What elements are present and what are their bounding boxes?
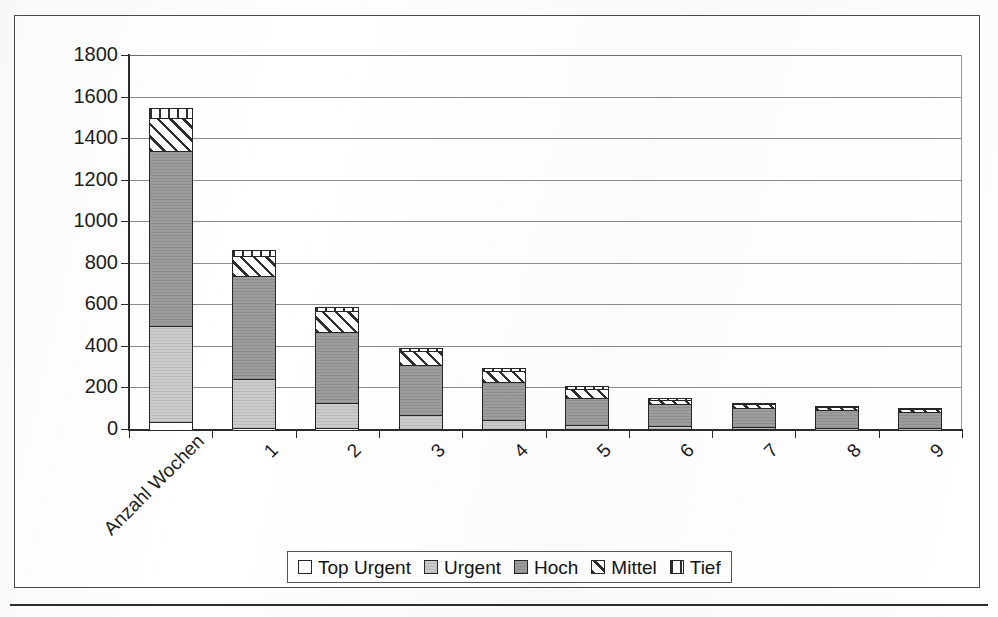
bar-segment[interactable]	[483, 382, 525, 419]
gridline	[129, 180, 962, 181]
bar-column[interactable]	[815, 406, 859, 429]
bar-segment[interactable]	[316, 428, 358, 430]
bar-segment[interactable]	[150, 109, 192, 118]
bar-segment[interactable]	[400, 415, 442, 429]
y-axis-tick-label: 1400	[0, 127, 118, 147]
bar-column[interactable]	[898, 408, 942, 429]
legend-item[interactable]: Top Urgent	[298, 558, 411, 577]
bar-segment[interactable]	[566, 389, 608, 398]
y-axis-tick-label: 1000	[0, 210, 118, 230]
y-tick-mark	[121, 263, 129, 264]
bar-segment[interactable]	[316, 311, 358, 332]
bar-segment[interactable]	[233, 428, 275, 430]
bar-segment[interactable]	[566, 429, 608, 430]
x-tick-mark	[629, 429, 630, 438]
bar-segment[interactable]	[816, 410, 858, 428]
y-tick-mark	[121, 55, 129, 56]
bar-segment[interactable]	[566, 398, 608, 425]
legend-swatch-urgent-icon	[424, 560, 438, 574]
y-axis-tick-label: 400	[0, 335, 118, 355]
bar-segment[interactable]	[899, 430, 941, 431]
legend-item[interactable]: Urgent	[424, 558, 501, 577]
x-tick-mark	[212, 429, 213, 438]
x-tick-mark	[879, 429, 880, 438]
legend-label: Top Urgent	[318, 558, 411, 577]
y-tick-mark	[121, 387, 129, 388]
y-axis-tick-label: 1200	[0, 169, 118, 189]
legend-swatch-mittel-icon	[591, 560, 605, 574]
y-axis-tick-label: 0	[0, 418, 118, 438]
bar-segment[interactable]	[150, 422, 192, 430]
y-axis-tick-label: 200	[0, 376, 118, 396]
bar-column[interactable]	[482, 368, 526, 429]
y-tick-mark	[121, 180, 129, 181]
bar-segment[interactable]	[483, 420, 525, 429]
gridline	[129, 97, 962, 98]
x-tick-mark	[296, 429, 297, 438]
y-tick-mark	[121, 138, 129, 139]
bar-column[interactable]	[732, 403, 776, 429]
bar-segment[interactable]	[733, 408, 775, 428]
bar-segment[interactable]	[733, 429, 775, 430]
bar-column[interactable]	[149, 108, 193, 429]
bar-segment[interactable]	[400, 429, 442, 430]
bottom-rule	[10, 604, 988, 606]
x-tick-mark	[795, 429, 796, 438]
bar-column[interactable]	[648, 398, 692, 429]
bar-column[interactable]	[399, 348, 443, 429]
bar-segment[interactable]	[316, 332, 358, 404]
y-axis-tick-label: 1600	[0, 86, 118, 106]
plot-right-border	[961, 55, 962, 430]
bar-segment[interactable]	[400, 351, 442, 366]
chart-page: 180016001400120010008006004002000 Anzahl…	[0, 0, 998, 617]
legend-label: Mittel	[611, 558, 656, 577]
x-tick-mark	[962, 429, 963, 438]
bar-segment[interactable]	[233, 379, 275, 428]
legend-label: Hoch	[534, 558, 578, 577]
bar-segment[interactable]	[649, 429, 691, 430]
x-tick-mark	[129, 429, 130, 438]
bar-segment[interactable]	[649, 404, 691, 426]
legend-item[interactable]: Hoch	[514, 558, 578, 577]
y-axis-tick-label: 1800	[0, 44, 118, 64]
gridline	[129, 138, 962, 139]
x-tick-mark	[712, 429, 713, 438]
bar-segment[interactable]	[483, 429, 525, 430]
y-axis-tick-label: 600	[0, 293, 118, 313]
y-tick-mark	[121, 97, 129, 98]
bar-segment[interactable]	[816, 430, 858, 431]
x-tick-mark	[379, 429, 380, 438]
bar-segment[interactable]	[316, 403, 358, 428]
chart-legend: Top UrgentUrgentHochMittelTief	[287, 551, 732, 583]
gridline	[129, 221, 962, 222]
legend-swatch-hoch-icon	[514, 560, 528, 574]
legend-swatch-topurgent-icon	[298, 560, 312, 574]
x-tick-mark	[462, 429, 463, 438]
legend-swatch-tief-icon	[670, 560, 684, 574]
bar-segment[interactable]	[899, 412, 941, 429]
bar-column[interactable]	[565, 386, 609, 429]
bar-segment[interactable]	[400, 365, 442, 415]
legend-item[interactable]: Tief	[670, 558, 721, 577]
y-tick-mark	[121, 221, 129, 222]
plot-top-border	[129, 55, 962, 56]
legend-item[interactable]: Mittel	[591, 558, 656, 577]
y-axis-tick-label: 800	[0, 252, 118, 272]
bar-segment[interactable]	[483, 371, 525, 382]
bar-segment[interactable]	[233, 256, 275, 276]
legend-label: Urgent	[444, 558, 501, 577]
y-tick-mark	[121, 346, 129, 347]
x-tick-mark	[546, 429, 547, 438]
y-tick-mark	[121, 429, 129, 430]
bar-column[interactable]	[232, 250, 276, 429]
bar-segment[interactable]	[233, 276, 275, 379]
legend-label: Tief	[690, 558, 721, 577]
bar-segment[interactable]	[150, 151, 192, 327]
bar-segment[interactable]	[150, 118, 192, 150]
bar-segment[interactable]	[150, 326, 192, 422]
bar-column[interactable]	[315, 307, 359, 429]
y-axis-line	[128, 54, 130, 431]
y-tick-mark	[121, 304, 129, 305]
